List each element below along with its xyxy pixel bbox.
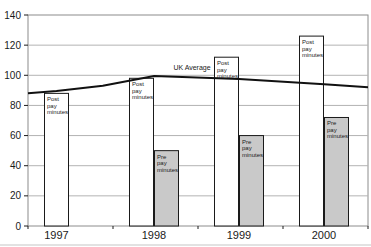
bar-post-pay-minutes-1999 <box>215 57 239 226</box>
x-axis-label-2000: 2000 <box>312 229 336 241</box>
y-axis-label-120: 120 <box>4 40 21 51</box>
y-axis-label-80: 80 <box>10 100 22 111</box>
y-axis-label-60: 60 <box>10 130 22 141</box>
y-axis-label-20: 20 <box>10 190 22 201</box>
x-axis-label-1997: 1997 <box>44 229 68 241</box>
y-axis-label-0: 0 <box>15 221 21 232</box>
x-axis-label-1998: 1998 <box>142 229 166 241</box>
y-axis-label-40: 40 <box>10 160 22 171</box>
y-axis-label-140: 140 <box>4 10 21 21</box>
bar-post-pay-minutes-1998 <box>130 78 154 226</box>
y-axis-label-100: 100 <box>4 70 21 81</box>
chart: 020406080100120140Postpayminutes1997Post… <box>0 0 371 247</box>
bar-post-pay-minutes-2000 <box>300 36 324 226</box>
chart-canvas: 020406080100120140Postpayminutes1997Post… <box>0 0 371 247</box>
x-axis-label-1999: 1999 <box>227 229 251 241</box>
uk-average-label: UK Average <box>173 64 210 72</box>
